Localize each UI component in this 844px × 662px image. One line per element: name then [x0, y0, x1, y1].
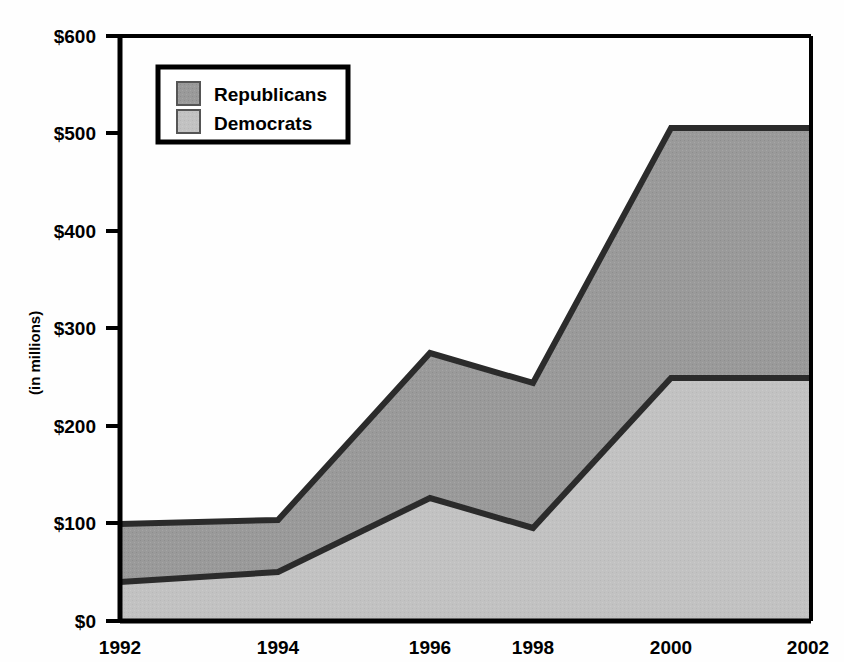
x-tick-label-1998: 1998	[512, 637, 554, 658]
chart-legend: Republicans Democrats	[158, 67, 348, 142]
legend-swatch-republicans	[177, 82, 200, 105]
y-axis-title: (in millions)	[26, 311, 43, 395]
x-tick-label-1992: 1992	[99, 637, 141, 658]
y-tick-label-600: $600	[54, 26, 96, 47]
stacked-area-chart: $600 $500 $400 $300 $200 $100 $0 (in mil…	[0, 0, 844, 662]
x-tick-label-1996: 1996	[409, 637, 451, 658]
legend-swatch-democrats	[177, 110, 200, 133]
x-tick-label-2002: 2002	[787, 637, 829, 658]
y-tick-label-100: $100	[54, 513, 96, 534]
legend-label-republicans: Republicans	[214, 84, 327, 105]
x-tick-label-2000: 2000	[650, 637, 692, 658]
chart-figure: $600 $500 $400 $300 $200 $100 $0 (in mil…	[0, 0, 844, 662]
y-tick-label-500: $500	[54, 123, 96, 144]
y-tick-label-0: $0	[75, 611, 96, 632]
y-tick-label-400: $400	[54, 221, 96, 242]
legend-label-democrats: Democrats	[214, 113, 312, 134]
x-tick-label-1994: 1994	[257, 637, 300, 658]
y-tick-label-200: $200	[54, 416, 96, 437]
y-tick-label-300: $300	[54, 318, 96, 339]
